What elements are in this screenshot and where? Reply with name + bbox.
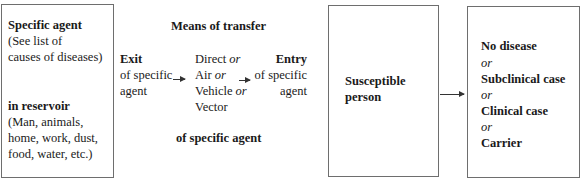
reservoir-title-note-2: causes of diseases) <box>8 49 102 65</box>
entry-line-2: agent <box>280 83 307 99</box>
outcome-or-3: or <box>481 119 492 135</box>
outcome-or-1: or <box>481 55 492 71</box>
means-vehicle: Vehicle or <box>195 83 247 99</box>
host-to-outcome-arrow <box>440 94 464 95</box>
reservoir-subtitle: in reservoir <box>8 98 70 114</box>
outcome-or-2: or <box>481 87 492 103</box>
reservoir-title: Specific agent <box>8 17 82 33</box>
outcome-no-disease: No disease <box>481 38 537 54</box>
reservoir-title-note-1: (See list of <box>8 33 62 49</box>
transfer-heading: Means of transfer <box>171 18 266 34</box>
exit-title: Exit <box>120 51 142 67</box>
host-line-1: Susceptible <box>345 73 405 89</box>
reservoir-note-2: home, work, dust, <box>8 130 98 146</box>
means-air: Air or <box>195 67 226 83</box>
means-direct: Direct or <box>195 51 240 67</box>
exit-line-1: of specific <box>120 67 172 83</box>
outcome-subclinical: Subclinical case <box>481 71 565 87</box>
exit-arrow <box>173 79 185 80</box>
transfer-footer: of specific agent <box>176 130 261 146</box>
host-line-2: person <box>345 89 381 105</box>
outcome-clinical: Clinical case <box>481 103 548 119</box>
means-vector: Vector <box>195 99 228 115</box>
outcome-carrier: Carrier <box>481 135 522 151</box>
reservoir-note-1: (Man, animals, <box>8 114 83 130</box>
entry-line-1: of specific <box>255 67 307 83</box>
reservoir-note-3: food, water, etc.) <box>8 146 93 162</box>
entry-title: Entry <box>276 51 307 67</box>
means-arrow <box>239 80 250 81</box>
exit-line-2: agent <box>120 83 147 99</box>
